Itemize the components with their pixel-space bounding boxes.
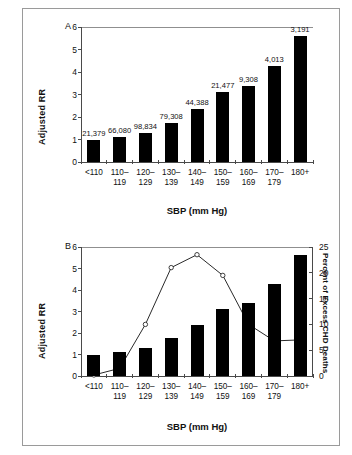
x-tick-label: 180+ [284,382,316,392]
right-y-tick-label: 0 [319,371,324,381]
y-tick-label: 4 [65,285,77,295]
x-tick [235,160,236,164]
bar-value-label: 79,308 [149,112,193,121]
bar [268,284,281,376]
x-tick [132,160,133,164]
panel-a-x-axis [81,162,313,163]
panel-a: A Adjusted RR SBP (mm Hg) 012345621,3796… [23,9,341,231]
bar [113,352,126,376]
right-y-tick [309,324,313,325]
right-y-tick-label: 5 [319,345,324,355]
y-tick [78,27,82,28]
x-tick-label-line2: 179 [258,392,290,402]
panel-b: B Adjusted RR Percent of Excess CHD Deat… [23,231,341,447]
bar-value-label: 44,388 [175,98,219,107]
bar-value-label: 9,308 [227,75,271,84]
y-tick-label: 4 [65,67,77,77]
right-y-tick [309,247,313,248]
panel-a-y-axis-label: Adjusted RR [37,89,47,145]
y-tick [78,94,82,95]
x-tick-label: 180+ [284,168,316,178]
bar [87,355,100,377]
x-tick [261,374,262,378]
x-tick [158,160,159,164]
bar [165,338,178,376]
bar [87,140,100,163]
bar [242,86,255,163]
bar-value-label: 3,191 [278,25,322,34]
y-tick-label: 6 [65,22,77,32]
y-tick-label: 1 [65,350,77,360]
right-y-tick [309,350,313,351]
figure-container: A Adjusted RR SBP (mm Hg) 012345621,3796… [0,0,352,455]
x-tick [313,374,314,378]
line-marker [195,253,199,257]
x-tick [287,160,288,164]
right-y-tick [309,272,313,273]
x-tick [106,160,107,164]
y-tick-label: 3 [65,307,77,317]
x-tick [81,160,82,164]
y-tick-label: 3 [65,90,77,100]
bar [242,303,255,376]
x-tick [209,374,210,378]
right-y-tick-label: 25 [319,242,328,252]
bar [139,133,152,162]
line-marker [169,265,173,269]
x-tick-label-line2: 179 [258,178,290,188]
y-tick-label: 0 [65,371,77,381]
y-tick-label: 5 [65,45,77,55]
x-tick [158,374,159,378]
bar [294,255,307,376]
bar [216,309,229,376]
panel-a-x-axis-label: SBP (mm Hg) [81,205,313,216]
figure-frame: A Adjusted RR SBP (mm Hg) 012345621,3796… [22,8,340,446]
x-tick [209,160,210,164]
line-marker [143,322,147,326]
x-tick [132,374,133,378]
x-tick [184,160,185,164]
x-tick-label-line1: 180+ [284,168,316,178]
bar-value-label: 98,834 [123,122,167,131]
y-tick [78,139,82,140]
bar-value-label: 4,013 [252,55,296,64]
bar [191,325,204,376]
y-tick [78,49,82,50]
y-tick [78,311,82,312]
panel-b-y-axis-label: Adjusted RR [37,303,47,359]
panel-a-plot-area [81,27,313,163]
y-tick [78,333,82,334]
y-tick-label: 2 [65,328,77,338]
bar [113,137,126,162]
x-tick [287,374,288,378]
y-tick-label: 0 [65,157,77,167]
x-tick [81,374,82,378]
x-tick [184,374,185,378]
right-y-tick-label: 15 [319,294,328,304]
right-y-tick [309,298,313,299]
line-marker [221,273,225,277]
y-tick [78,268,82,269]
x-tick [313,160,314,164]
x-tick-label-line1: 180+ [284,382,316,392]
y-tick-label: 5 [65,264,77,274]
y-tick [78,354,82,355]
panel-b-plot-area [81,247,313,377]
bar [139,348,152,376]
y-tick [78,117,82,118]
x-tick [261,160,262,164]
x-tick [235,374,236,378]
y-tick-label: 2 [65,112,77,122]
right-y-tick-label: 20 [319,268,328,278]
y-tick [78,72,82,73]
panel-b-x-axis-label: SBP (mm Hg) [81,421,313,432]
y-tick [78,247,82,248]
right-y-tick-label: 10 [319,319,328,329]
y-tick [78,290,82,291]
x-tick [106,374,107,378]
y-tick-label: 6 [65,242,77,252]
